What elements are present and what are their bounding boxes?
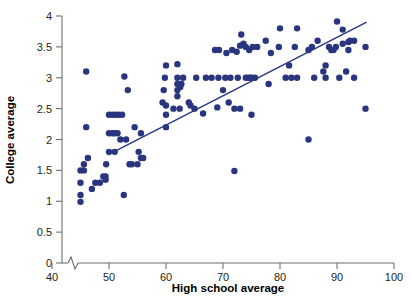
data-point	[235, 75, 241, 81]
data-point	[233, 49, 239, 55]
data-point	[294, 25, 300, 31]
y-tick-label: 2.5	[37, 103, 52, 115]
data-point	[200, 110, 206, 116]
data-point	[351, 75, 357, 81]
data-point	[216, 47, 222, 53]
x-tick-label: 50	[103, 271, 115, 283]
data-point	[340, 41, 346, 47]
data-point	[129, 161, 135, 167]
data-point	[163, 102, 169, 108]
data-point	[254, 44, 260, 50]
data-point	[343, 68, 349, 74]
y-tick-label: 0.5	[37, 226, 52, 238]
x-tick-label: 60	[160, 271, 172, 283]
data-point	[263, 38, 269, 44]
y-axis-tick-group: 00.511.522.533.54	[37, 10, 62, 269]
data-point	[277, 25, 283, 31]
regression-line	[108, 22, 367, 155]
y-tick-label: 1.5	[37, 164, 52, 176]
data-point	[203, 75, 209, 81]
data-point	[81, 167, 87, 173]
data-point	[97, 180, 103, 186]
data-point	[334, 18, 340, 24]
y-tick-label: 1	[46, 195, 52, 207]
data-point	[176, 105, 182, 111]
data-point	[85, 155, 91, 161]
data-point	[131, 124, 137, 130]
y-tick-label: 0	[46, 257, 52, 269]
x-axis-tick-group: 405060708090100	[46, 263, 403, 283]
x-tick-label: 100	[385, 271, 403, 283]
data-point	[265, 81, 271, 87]
x-tick-label: 40	[46, 271, 58, 283]
data-point	[77, 199, 83, 205]
data-point	[193, 75, 199, 81]
data-point	[77, 192, 83, 198]
data-point	[322, 75, 328, 81]
data-point	[223, 50, 229, 56]
data-point	[214, 104, 220, 110]
data-point	[268, 50, 274, 56]
data-point	[161, 87, 167, 93]
y-tick-label: 2	[46, 134, 52, 146]
y-tick-label: 3	[46, 72, 52, 84]
data-point	[238, 31, 244, 37]
data-point	[103, 161, 109, 167]
data-point	[340, 26, 346, 32]
data-point	[125, 87, 131, 93]
data-point	[237, 105, 243, 111]
data-point	[345, 47, 351, 53]
data-point	[174, 75, 180, 81]
data-point	[227, 75, 233, 81]
data-point	[314, 38, 320, 44]
data-point	[226, 99, 232, 105]
data-point	[208, 75, 214, 81]
data-point	[135, 149, 141, 155]
data-point	[138, 130, 144, 136]
data-point	[248, 112, 254, 118]
x-axis-title: High school average	[172, 282, 284, 294]
data-point	[174, 93, 180, 99]
chart-canvas: 00.511.522.533.54 405060708090100 High s…	[0, 0, 412, 305]
data-point	[294, 75, 300, 81]
data-point	[311, 75, 317, 81]
data-point	[333, 44, 339, 50]
axis-break-zigzag	[68, 257, 78, 269]
data-point	[174, 61, 180, 67]
data-point	[140, 155, 146, 161]
data-point	[83, 124, 89, 130]
data-point	[305, 136, 311, 142]
data-point	[215, 75, 221, 81]
data-point	[231, 168, 237, 174]
data-point	[170, 105, 176, 111]
data-point	[320, 68, 326, 74]
data-point	[276, 44, 282, 50]
y-tick-label: 4	[46, 10, 52, 22]
data-point	[102, 176, 108, 182]
data-point	[121, 73, 127, 79]
data-point	[288, 75, 294, 81]
y-tick-label: 3.5	[37, 41, 52, 53]
data-point	[119, 112, 125, 118]
data-point	[178, 81, 184, 87]
data-point	[77, 180, 83, 186]
data-point	[362, 44, 368, 50]
data-point	[351, 38, 357, 44]
data-point	[283, 75, 289, 81]
data-point	[117, 136, 123, 142]
data-point	[231, 105, 237, 111]
data-point	[220, 87, 226, 93]
data-point	[114, 130, 120, 136]
data-point	[81, 161, 87, 167]
data-point-group	[77, 18, 368, 205]
data-point	[322, 62, 328, 68]
data-point	[121, 192, 127, 198]
data-point	[123, 136, 129, 142]
data-point	[362, 105, 368, 111]
data-point	[163, 62, 169, 68]
data-point	[83, 68, 89, 74]
y-axis-title: College average	[4, 96, 16, 184]
data-point	[134, 161, 140, 167]
data-point	[336, 75, 342, 81]
data-point	[292, 44, 298, 50]
